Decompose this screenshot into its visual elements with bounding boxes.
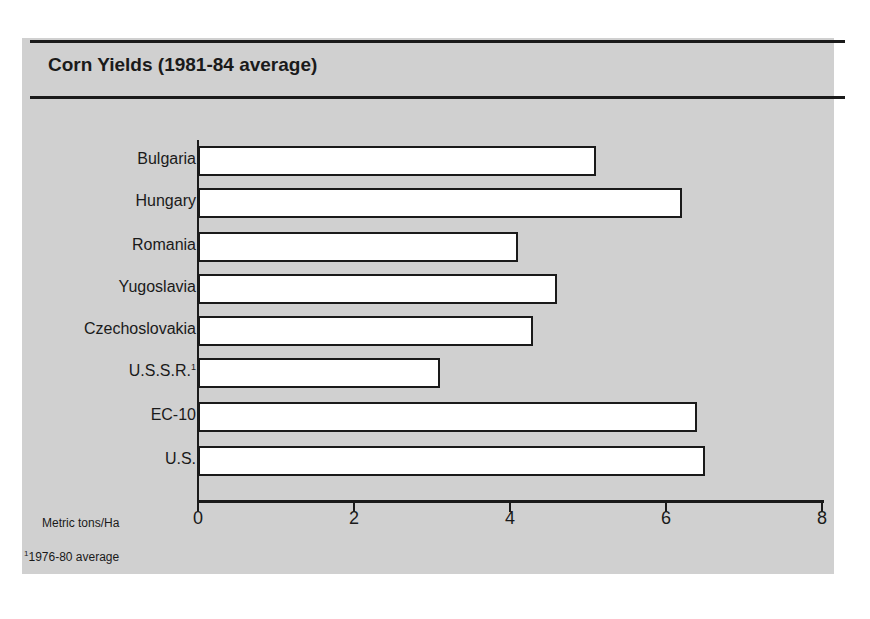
bar xyxy=(198,446,705,476)
bar-label: EC-10 xyxy=(151,406,196,424)
top-rule xyxy=(30,40,845,43)
x-axis-unit-label: Metric tons/Ha xyxy=(42,516,119,530)
x-tick-label: 2 xyxy=(349,508,359,529)
bar-label: U.S.S.R.1 xyxy=(129,362,196,380)
bar-label: Romania xyxy=(132,236,196,254)
bar-label: Yugoslavia xyxy=(119,278,196,296)
chart-panel xyxy=(22,38,834,574)
bar xyxy=(198,188,682,218)
x-tick-label: 4 xyxy=(505,508,515,529)
bar-label: U.S. xyxy=(165,450,196,468)
bar xyxy=(198,232,518,262)
bar xyxy=(198,402,697,432)
bar xyxy=(198,146,596,176)
bar-label: Czechoslovakia xyxy=(84,320,196,338)
bar-label: Bulgaria xyxy=(137,150,196,168)
bar xyxy=(198,274,557,304)
y-axis xyxy=(197,140,199,504)
x-tick-label: 8 xyxy=(817,508,827,529)
x-tick-label: 6 xyxy=(661,508,671,529)
chart-title: Corn Yields (1981-84 average) xyxy=(48,54,317,76)
footnote-ref-mark: 1 xyxy=(191,362,196,372)
footnote-text: 1976-80 average xyxy=(28,550,119,564)
footnote: 11976-80 average xyxy=(24,549,119,564)
x-tick-label: 0 xyxy=(193,508,203,529)
bar xyxy=(198,316,533,346)
bar-label: Hungary xyxy=(136,192,196,210)
title-rule xyxy=(30,96,845,99)
bar xyxy=(198,358,440,388)
